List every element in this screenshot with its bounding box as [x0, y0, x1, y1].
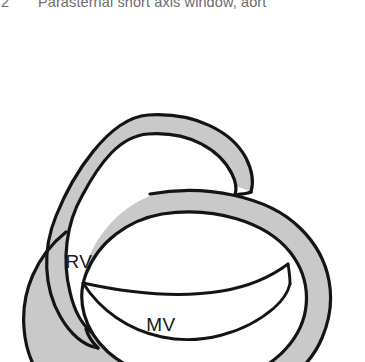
figure-caption: 2 Parasternal short axis window, aort — [0, 0, 365, 16]
label-rv: RV — [66, 251, 93, 272]
figure-caption-number: 2 — [1, 0, 9, 10]
heart-short-axis-svg: RV MV LV MV — [0, 96, 365, 362]
figure-caption-text: Parasternal short axis window, aort — [38, 0, 266, 10]
label-mv-upper: MV — [146, 314, 175, 335]
superior-rv-insertion — [235, 192, 251, 195]
heart-diagram-figure: RV MV LV MV — [0, 96, 365, 362]
